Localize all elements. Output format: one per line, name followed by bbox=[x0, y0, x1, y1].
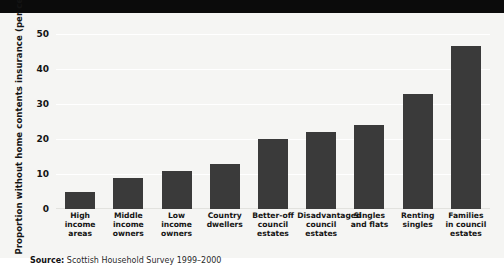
bar-slot bbox=[345, 27, 393, 209]
bar-chart: Proportion without home contents insuran… bbox=[0, 13, 504, 258]
bar-slot bbox=[153, 27, 201, 209]
x-axis-label-slot: Singles and flats bbox=[345, 211, 393, 247]
source-label: Source: bbox=[30, 256, 64, 265]
x-axis-category-label: Low income owners bbox=[153, 211, 201, 239]
top-black-band bbox=[0, 0, 504, 13]
x-axis-label-slot: Renting singles bbox=[394, 211, 442, 247]
bar[interactable] bbox=[451, 46, 481, 209]
x-axis-labels: High income areasMiddle income ownersLow… bbox=[56, 211, 490, 247]
bar[interactable] bbox=[354, 125, 384, 209]
x-axis-category-label: Middle income owners bbox=[104, 211, 152, 239]
y-axis-tick-label: 50 bbox=[36, 29, 49, 39]
y-axis-tick-label: 0 bbox=[43, 204, 49, 214]
x-axis-label-slot: Middle income owners bbox=[104, 211, 152, 247]
bar-slot bbox=[104, 27, 152, 209]
x-axis-category-label: Country dwellers bbox=[201, 211, 249, 229]
x-axis-category-label: High income areas bbox=[56, 211, 104, 239]
bar-slot bbox=[394, 27, 442, 209]
x-axis-category-label: Families in council estates bbox=[442, 211, 490, 239]
y-axis-title-container: Proportion without home contents insuran… bbox=[8, 31, 30, 206]
y-axis-tick-label: 10 bbox=[36, 169, 49, 179]
y-axis-tick-label: 30 bbox=[36, 99, 49, 109]
bar[interactable] bbox=[113, 178, 143, 210]
bar[interactable] bbox=[65, 192, 95, 210]
bar-slot bbox=[201, 27, 249, 209]
plot-area: 01020304050 bbox=[56, 27, 490, 209]
y-axis-tick-label: 40 bbox=[36, 64, 49, 74]
source-note: Source: Scottish Household Survey 1999–2… bbox=[30, 256, 221, 265]
bar-slot bbox=[56, 27, 104, 209]
bar-slot bbox=[297, 27, 345, 209]
x-axis-label-slot: Families in council estates bbox=[442, 211, 490, 247]
source-text: Scottish Household Survey 1999–2000 bbox=[64, 256, 221, 265]
bar[interactable] bbox=[210, 164, 240, 210]
x-axis-category-label: Renting singles bbox=[394, 211, 442, 229]
x-axis-label-slot: Better-off council estates bbox=[249, 211, 297, 247]
bar[interactable] bbox=[403, 94, 433, 210]
bar[interactable] bbox=[258, 139, 288, 209]
x-axis-label-slot: Low income owners bbox=[153, 211, 201, 247]
bar-slot bbox=[442, 27, 490, 209]
x-axis-label-slot: Country dwellers bbox=[201, 211, 249, 247]
x-axis-category-label: Better-off council estates bbox=[249, 211, 297, 239]
bar[interactable] bbox=[306, 132, 336, 209]
bar-slot bbox=[249, 27, 297, 209]
bar[interactable] bbox=[162, 171, 192, 210]
bar-series bbox=[56, 27, 490, 209]
x-axis-category-label: Singles and flats bbox=[345, 211, 393, 229]
x-axis-label-slot: Disadvantaged council estates bbox=[297, 211, 345, 247]
x-axis-label-slot: High income areas bbox=[56, 211, 104, 247]
x-axis-category-label: Disadvantaged council estates bbox=[297, 211, 345, 239]
y-axis-tick-label: 20 bbox=[36, 134, 49, 144]
y-axis-title: Proportion without home contents insuran… bbox=[14, 0, 25, 254]
